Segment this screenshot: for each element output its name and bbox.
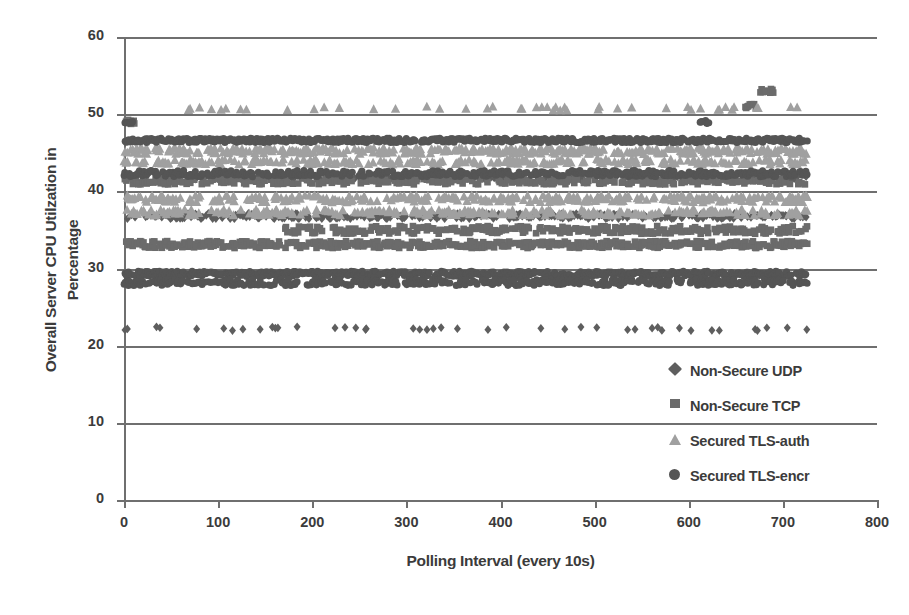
gridline-y-20 (124, 346, 877, 348)
legend-item-label: Non-Secure TCP (690, 398, 800, 414)
y-tick-label-60: 60 (62, 27, 104, 43)
legend-item-non-secure-tcp[interactable]: Non-Secure TCP (668, 391, 883, 420)
y-tick-label-20: 20 (62, 336, 104, 352)
diamond-marker-icon (668, 364, 682, 378)
x-tick-mark-800 (877, 500, 879, 508)
legend-item-non-secure-udp[interactable]: Non-Secure UDP (668, 356, 883, 385)
legend-item-label: Non-Secure UDP (690, 363, 802, 379)
legend-item-secured-tls-encr[interactable]: Secured TLS-encr (668, 461, 883, 490)
x-tick-label-200: 200 (282, 514, 342, 530)
gridline-y-40 (124, 191, 877, 193)
x-tick-mark-400 (501, 500, 503, 508)
x-tick-mark-100 (218, 500, 220, 508)
x-tick-mark-500 (595, 500, 597, 508)
x-tick-label-500: 500 (565, 514, 625, 530)
x-tick-label-100: 100 (188, 514, 248, 530)
y-tick-label-0: 0 (62, 490, 104, 506)
scatter-chart: Overall Server CPU Utilzation in Percent… (0, 0, 909, 615)
x-tick-mark-200 (312, 500, 314, 508)
x-tick-mark-600 (689, 500, 691, 508)
y-tick-label-10: 10 (62, 413, 104, 429)
y-tick-label-50: 50 (62, 104, 104, 120)
gridline-y-60 (124, 37, 877, 39)
x-tick-label-800: 800 (847, 514, 907, 530)
square-marker-icon (668, 399, 682, 413)
circle-marker-icon (668, 469, 682, 483)
y-tick-label-30: 30 (62, 259, 104, 275)
y-axis-title-line1: Overall Server CPU Utilzation in (40, 30, 62, 490)
chart-legend: Non-Secure UDPNon-Secure TCPSecured TLS-… (668, 356, 883, 496)
triangle-marker-icon (668, 434, 682, 448)
x-tick-label-300: 300 (376, 514, 436, 530)
x-tick-mark-0 (124, 500, 126, 508)
y-tick-label-40: 40 (62, 181, 104, 197)
x-tick-label-400: 400 (471, 514, 531, 530)
x-tick-mark-300 (406, 500, 408, 508)
legend-item-label: Secured TLS-auth (690, 433, 809, 449)
x-axis-title: Polling Interval (every 10s) (124, 552, 877, 570)
legend-item-label: Secured TLS-encr (690, 468, 809, 484)
gridline-y-50 (124, 114, 877, 116)
x-tick-label-0: 0 (94, 514, 154, 530)
x-tick-label-700: 700 (753, 514, 813, 530)
x-tick-label-600: 600 (659, 514, 719, 530)
legend-item-secured-tls-auth[interactable]: Secured TLS-auth (668, 426, 883, 455)
gridline-y-30 (124, 269, 877, 271)
x-tick-mark-700 (783, 500, 785, 508)
